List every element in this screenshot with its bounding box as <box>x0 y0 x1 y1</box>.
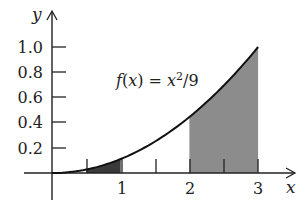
y-tick-label: 1.0 <box>18 38 43 57</box>
shaded-region-2-to-3 <box>189 47 258 173</box>
chart-root: 1.0 0.8 0.6 0.4 0.2 1 2 3 y x f(x) = x2/… <box>0 0 300 215</box>
function-label: f(x) = x2/9 <box>115 70 199 90</box>
y-tick-label: 0.2 <box>18 139 43 158</box>
x-tick-label: 1 <box>117 179 127 198</box>
plot-area: 1.0 0.8 0.6 0.4 0.2 1 2 3 y x f(x) = x2/… <box>0 0 300 215</box>
y-ticks <box>52 47 66 148</box>
y-tick-label: 0.8 <box>18 63 43 82</box>
x-tick-label: 3 <box>253 179 263 198</box>
y-axis-label: y <box>31 4 42 24</box>
x-axis-label: x <box>286 177 296 197</box>
y-tick-label: 0.6 <box>18 88 43 107</box>
x-tick-label: 2 <box>185 179 195 198</box>
y-tick-label: 0.4 <box>18 113 43 132</box>
